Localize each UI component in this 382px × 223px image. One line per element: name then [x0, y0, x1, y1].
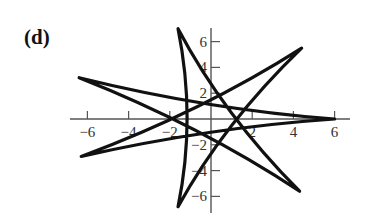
x-tick-label: 4 [290, 124, 298, 140]
star-curve [79, 29, 334, 207]
x-tick-label: 6 [331, 124, 339, 140]
x-tick-label: −6 [79, 124, 95, 140]
y-tick-label: 2 [200, 85, 208, 101]
y-tick-label: 6 [200, 34, 208, 50]
star-curve-plot: −6−4−2246642−2−4−6 [0, 0, 382, 223]
y-tick-label: −2 [191, 137, 207, 153]
y-tick-label: −6 [191, 188, 207, 204]
